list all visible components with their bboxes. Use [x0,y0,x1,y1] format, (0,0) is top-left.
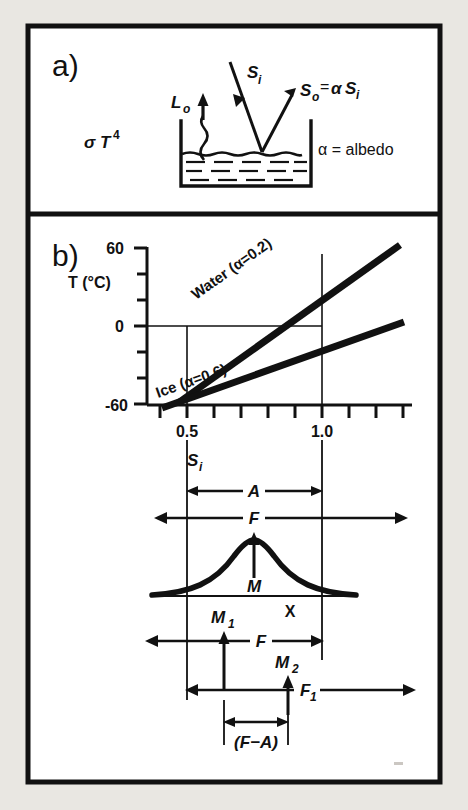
panel-a-label: a) [52,49,79,82]
figure-canvas: a) σ T 4 [0,0,468,810]
chart-ytick-neg60: -60 [105,397,128,414]
arrow-F-upper-label: F [249,509,260,528]
chart-ytick-0: 0 [115,318,124,335]
arrow-M1-subscript: 1 [228,617,235,631]
S-reflected-subscript: o [312,90,319,104]
arrow-A-label: A [247,482,260,501]
arrow-M2-label: M [275,653,290,672]
chart-ytick-60: 60 [106,240,124,257]
reflected-equals-sign: = [320,78,329,95]
L-symbol: L [171,93,181,112]
panel-b-label: b) [52,239,79,272]
arrow-F1-subscript: 1 [310,690,317,704]
scan-artifact [394,762,403,765]
arrow-M1-label: M [211,608,226,627]
S-reflected-symbol: S [300,81,312,100]
L-subscript: o [183,102,190,116]
figure-root: a) σ T 4 [0,0,468,810]
temperature-exponent: 4 [113,128,120,142]
temperature-symbol: T [100,133,112,152]
curve-x-label: X [285,603,296,620]
arrow-M2-subscript: 2 [291,662,299,676]
fa-bracket-label: (F−A) [234,733,278,752]
albedo-definition: α = albedo [318,141,394,158]
chart-xtick-0point5: 0.5 [176,423,198,440]
arrow-F-lower-label: F [256,632,267,651]
chart-y-axis-label: T (°C) [68,274,111,291]
sigma-icon: σ [84,133,96,152]
albedo-alpha-icon: α [331,79,343,98]
lower-axis-label: S [187,451,199,470]
arrow-M-label: M [247,577,262,596]
chart-xtick-1point0: 1.0 [311,423,333,440]
